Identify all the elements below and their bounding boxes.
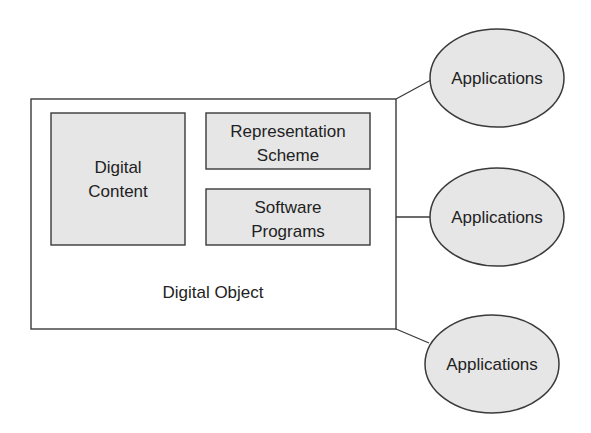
applications-label-2: Applications	[451, 208, 543, 227]
applications-label-1: Applications	[451, 69, 543, 88]
connector-top	[396, 80, 431, 99]
digital-content-label-line2: Content	[88, 182, 148, 201]
digital-object-label: Digital Object	[162, 283, 263, 302]
applications-node-1: Applications	[430, 29, 564, 127]
digital-content-label-line1: Digital	[94, 158, 141, 177]
representation-scheme-label-line2: Scheme	[257, 146, 319, 165]
software-programs-label-line1: Software	[254, 198, 321, 217]
connector-bottom	[396, 329, 429, 343]
applications-node-3: Applications	[425, 315, 559, 413]
applications-label-3: Applications	[446, 355, 538, 374]
digital-content-rect	[51, 113, 185, 245]
software-programs-label-line2: Programs	[251, 222, 325, 241]
representation-scheme-box: Representation Scheme	[206, 113, 370, 169]
applications-node-2: Applications	[430, 168, 564, 266]
software-programs-box: Software Programs	[206, 189, 370, 245]
digital-content-box: Digital Content	[51, 113, 185, 245]
representation-scheme-label-line1: Representation	[230, 122, 345, 141]
digital-object-diagram: Digital Content Representation Scheme So…	[0, 0, 591, 433]
